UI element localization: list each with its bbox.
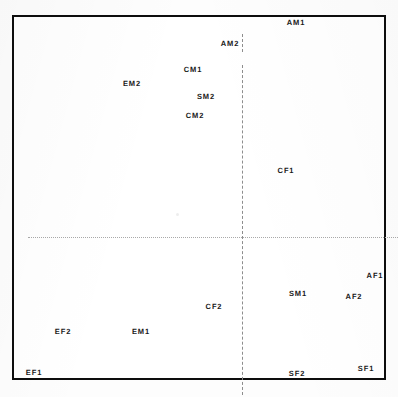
data-point-label-sm1: SM1 <box>289 290 307 298</box>
data-point-label-em2: EM2 <box>123 80 141 88</box>
data-point-label-ef2: EF2 <box>55 328 71 336</box>
data-point-label-sm2: SM2 <box>197 93 215 101</box>
scan-artifact-speck <box>176 213 179 216</box>
ordination-plot: AM1 AM2 CM1 EM2 SM2 CM2 CF1 AF1 SM1 AF2 … <box>0 0 398 397</box>
data-point-label-sf2: SF2 <box>289 370 305 378</box>
data-point-label-ef1: EF1 <box>26 369 42 377</box>
plot-frame: AM1 AM2 CM1 EM2 SM2 CM2 CF1 AF1 SM1 AF2 … <box>12 15 386 380</box>
data-point-label-cm2: CM2 <box>186 112 205 120</box>
data-point-label-am1: AM1 <box>287 19 306 27</box>
data-point-label-em1: EM1 <box>132 328 150 336</box>
data-point-label-sf1: SF1 <box>358 365 374 373</box>
data-point-label-af1: AF1 <box>367 272 384 280</box>
data-point-label-cf2: CF2 <box>206 303 223 311</box>
data-point-label-cf1: CF1 <box>278 167 295 175</box>
data-point-label-cm1: CM1 <box>184 66 203 74</box>
data-point-label-af2: AF2 <box>346 293 363 301</box>
data-point-label-am2: AM2 <box>219 38 242 49</box>
vertical-axis-line-upper <box>242 34 243 52</box>
vertical-axis-line <box>242 65 243 395</box>
horizontal-axis-line <box>28 237 398 238</box>
